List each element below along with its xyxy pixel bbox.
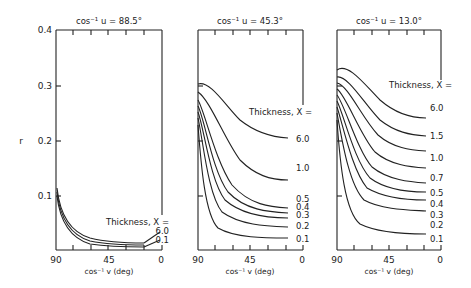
p2-x-axis-label: cos⁻¹ v (deg) [226,267,275,276]
p3-label-1.5: 1.5 [430,131,444,141]
chart-figure: cos⁻¹ u = 88.5° cos⁻¹ u = 45.3° cos⁻¹ u … [0,0,471,288]
p2-label-1.0: 1.0 [296,163,310,173]
p2-legend-title: Thickness, X = [248,107,312,117]
p2-x-tick-0: 0 [299,255,305,265]
p1-x-tick-90: 90 [50,255,62,265]
p2-label-0.3: 0.3 [296,210,310,220]
p1-x-axis-label: cos⁻¹ v (deg) [85,267,134,276]
y-tick-0.2: 0.2 [38,136,52,146]
p1-x-tick-0: 0 [158,255,164,265]
p3-label-0.2: 0.2 [430,220,444,230]
p1-label-0.1: 0.1 [155,235,169,245]
p3-x-tick-90: 90 [331,255,343,265]
p2-x-tick-90: 90 [192,255,204,265]
panel-3-curves [337,68,426,234]
p3-x-axis-label: cos⁻¹ v (deg) [365,267,414,276]
p3-legend-title: Thickness, X = [388,80,452,90]
y-tick-0.3: 0.3 [38,81,52,91]
p2-label-0.2: 0.2 [296,221,310,231]
p3-label-6.0: 6.0 [430,103,444,113]
y-axis-label: r [19,136,23,146]
panel-3-axes [337,30,441,250]
p3-label-0.1: 0.1 [430,234,444,244]
p3-x-tick-0: 0 [437,255,443,265]
p2-label-0.1: 0.1 [296,234,310,244]
y-tick-0.4: 0.4 [38,25,53,35]
p1-x-tick-45: 45 [103,255,114,265]
p2-x-tick-45: 45 [244,255,255,265]
y-tick-0.1: 0.1 [38,191,52,201]
panel-3-title: cos⁻¹ u = 13.0° [356,16,422,26]
p3-label-1.0: 1.0 [430,153,444,163]
p3-label-0.4: 0.4 [430,199,444,209]
p3-label-0.7: 0.7 [430,173,444,183]
p3-label-0.5: 0.5 [430,188,444,198]
p3-x-tick-45: 45 [383,255,394,265]
panel-2-axes [198,30,303,250]
panel-2-title: cos⁻¹ u = 45.3° [217,16,283,26]
panel-1-title: cos⁻¹ u = 88.5° [76,16,142,26]
p2-label-6.0: 6.0 [296,134,310,144]
p3-label-0.3: 0.3 [430,210,444,220]
